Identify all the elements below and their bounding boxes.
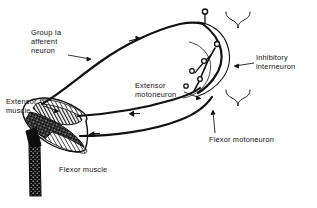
flow-arrow-extensor-icon [130,111,140,116]
flexor-motor-path [80,97,212,136]
label-flexor-motoneuron: Flexor motoneuron [209,135,274,144]
synapse-bouton [190,69,195,74]
synapse-bouton [198,77,203,82]
label-flexor-muscle: Flexor muscle [59,165,107,174]
brace-lower [226,90,250,106]
synapse-bouton [215,42,220,47]
synapse-bouton [184,84,188,88]
label-extensor-muscle: Extensor muscle [6,97,37,115]
tendon-shape [29,145,41,196]
flexor-motoneuron-fiber [80,97,212,136]
leader-inhibitory [234,63,254,68]
reciprocal-innervation-diagram: Group Ia afferent neuron Extensor muscle… [0,0,317,208]
label-inhibitory-interneuron: Inhibitory interneuron [256,53,295,71]
afferent-fiber-path [42,23,203,105]
synapse-bouton [202,59,207,64]
synaptic-terminal-top-icon [202,9,207,24]
leader-flexor-moto [211,110,215,133]
label-extensor-motoneuron: Extensor motoneuron [135,81,176,99]
leader-group-ia [68,55,91,61]
label-group-ia-afferent-neuron: Group Ia afferent neuron [31,28,61,56]
brace-upper [226,12,250,28]
